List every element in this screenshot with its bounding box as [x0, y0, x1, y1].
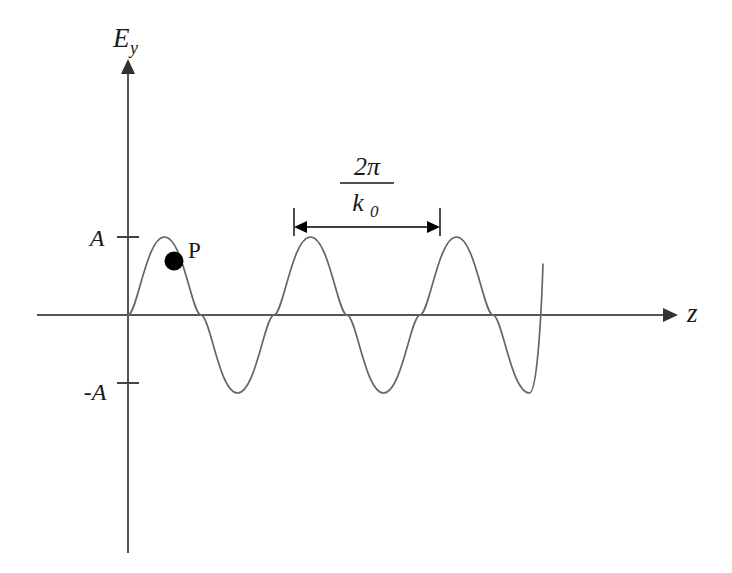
- wave-diagram-figure: P 2π k 0 E y z A -A: [0, 0, 732, 573]
- point-p-label: P: [188, 238, 201, 263]
- z-axis-group: [37, 308, 678, 322]
- fraction-denominator-subscript: 0: [370, 202, 379, 221]
- tick-label-positive-amplitude: A: [88, 225, 105, 251]
- wavelength-fraction-label: 2π k 0: [340, 152, 394, 221]
- ey-axis-label: E: [112, 23, 130, 53]
- tick-label-negative-amplitude: -A: [84, 379, 107, 405]
- wavelength-dimension: [294, 208, 440, 236]
- fraction-numerator: 2π: [354, 152, 381, 181]
- dimension-arrowhead-left: [294, 221, 307, 233]
- fraction-denominator: k: [352, 188, 364, 217]
- dimension-arrowhead-right: [427, 221, 440, 233]
- ey-axis-arrowhead: [121, 59, 135, 74]
- z-axis-arrowhead: [663, 308, 678, 322]
- point-p-marker: [165, 252, 184, 271]
- ey-axis-label-subscript: y: [128, 38, 138, 58]
- axis-labels: E y z: [112, 23, 698, 328]
- diagram-canvas: P 2π k 0 E y z A -A: [0, 0, 732, 573]
- z-axis-label: z: [686, 298, 698, 328]
